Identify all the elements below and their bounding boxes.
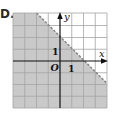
y-axis-label: y [63,11,70,22]
inequality-graph: y x O 1 1 [0,0,113,115]
y-tick-label: 1 [52,46,59,57]
origin-label: O [51,62,60,73]
x-tick-label: 1 [68,63,75,74]
x-axis-label: x [99,48,105,59]
